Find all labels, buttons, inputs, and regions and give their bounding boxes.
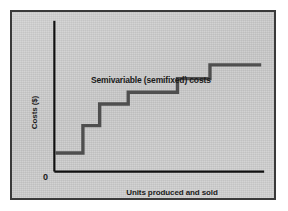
x-axis-title: Units produced and sold [66,188,278,197]
series-annotation-label: Semivariable (semifixed) costs [91,75,211,85]
figure-semivariable-costs: Costs ($) Units produced and sold 0 Semi… [0,0,288,211]
step-chart-plot [12,12,274,198]
y-axis-title: Costs ($) [30,73,39,153]
y-axis-origin-tick-label: 0 [43,172,48,182]
chart-panel: Costs ($) Units produced and sold 0 Semi… [10,10,276,200]
